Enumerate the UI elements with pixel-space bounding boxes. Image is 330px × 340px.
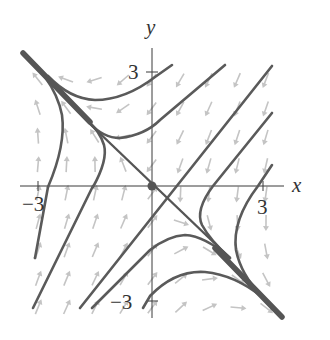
- arrowhead-icon: [234, 168, 240, 174]
- arrowhead-icon: [35, 128, 41, 133]
- arrowhead-icon: [241, 305, 246, 311]
- separatrix-thick-upper: [23, 53, 90, 122]
- arrowhead-icon: [263, 226, 269, 231]
- arrowhead-icon: [64, 156, 70, 161]
- arrowhead-icon: [86, 104, 91, 110]
- arrowhead-icon: [264, 254, 270, 259]
- phase-portrait: x y −3 3 3 −3: [0, 0, 330, 340]
- equilibrium-point: [148, 182, 157, 191]
- separatrix-thick-lower: [215, 248, 282, 317]
- y-axis-label: y: [144, 15, 156, 39]
- x-tick-label-neg3: −3: [22, 192, 44, 216]
- arrowhead-icon: [35, 156, 41, 161]
- x-axis-label: x: [291, 173, 302, 197]
- arrowhead-icon: [213, 276, 218, 282]
- arrowhead-icon: [205, 168, 211, 174]
- y-tick-label-neg3: −3: [110, 290, 132, 314]
- y-tick-label-3: 3: [128, 60, 139, 84]
- arrowhead-icon: [92, 156, 98, 161]
- x-tick-label-3: 3: [257, 195, 268, 219]
- arrowhead-icon: [234, 197, 240, 202]
- arrowhead-icon: [207, 225, 213, 231]
- arrowhead-icon: [177, 197, 183, 202]
